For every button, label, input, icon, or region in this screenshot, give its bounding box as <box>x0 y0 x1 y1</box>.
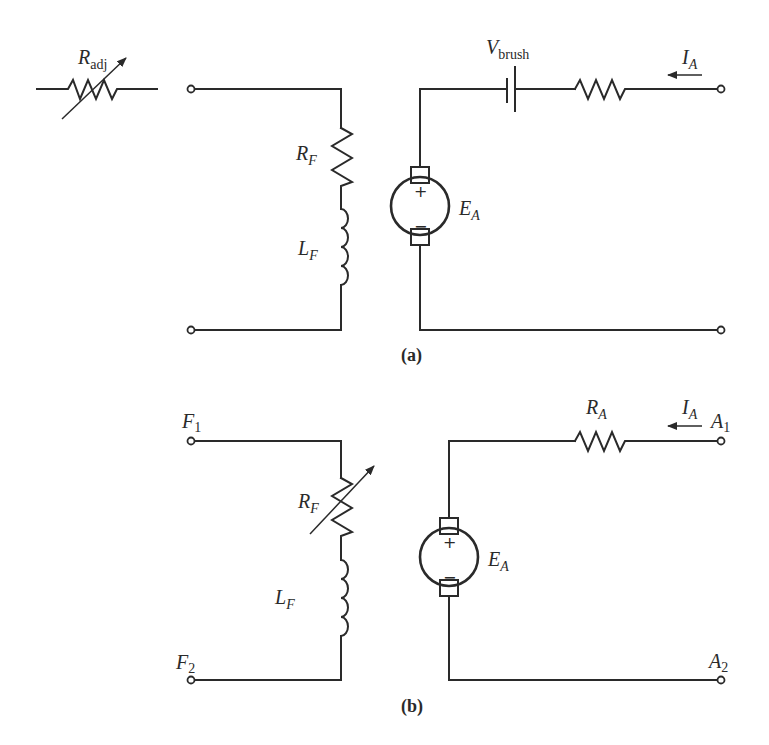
field-resistor-label-b: RF <box>297 490 319 516</box>
terminal-f2-label: F2 <box>175 651 195 676</box>
adjustable-resistor-label: Radj <box>77 46 107 72</box>
panel-a: Radj RF LF <box>37 36 725 366</box>
panel-b: F1 F2 RF LF + − RA <box>175 396 730 717</box>
terminal-f2 <box>188 677 195 684</box>
field-terminal-top <box>188 86 195 93</box>
field-resistor-symbol <box>332 128 352 209</box>
emf-plus-sign: + <box>414 182 427 201</box>
field-resistor-label: RF <box>295 142 317 168</box>
emf-minus-sign-b: − <box>443 568 456 587</box>
armature-resistor-symbol <box>575 80 718 99</box>
emf-minus-sign: − <box>414 217 427 236</box>
armature-machine-symbol-b: + − <box>420 518 478 596</box>
dc-motor-equivalent-circuit-figure: Radj RF LF <box>0 0 769 745</box>
armature-circuit-b: + − <box>420 426 725 684</box>
armature-terminal-top <box>718 86 725 93</box>
armature-terminal-bottom <box>718 327 725 334</box>
armature-current-label: IA <box>681 46 698 72</box>
armature-resistor-label-b: RA <box>585 396 607 422</box>
variable-field-resistor-symbol <box>332 478 352 560</box>
field-terminal-bottom <box>188 327 195 334</box>
field-inductor-symbol-b <box>341 560 348 636</box>
emf-plus-sign-b: + <box>443 533 456 552</box>
terminal-a2-label: A2 <box>707 650 728 675</box>
terminal-a1 <box>718 438 725 445</box>
terminal-a1-label: A1 <box>709 410 730 435</box>
armature-circuit: + − <box>391 67 725 334</box>
field-inductor-symbol <box>341 209 348 285</box>
terminal-f1-label: F1 <box>181 410 201 435</box>
field-circuit-b <box>188 438 375 684</box>
field-inductor-label: LF <box>297 237 318 263</box>
armature-machine-symbol: + − <box>391 167 449 245</box>
armature-current-label-b: IA <box>681 396 698 422</box>
brush-drop-label: Vbrush <box>486 36 529 62</box>
armature-resistor-symbol-b <box>575 432 718 451</box>
field-circuit <box>188 86 353 334</box>
armature-emf-label-b: EA <box>487 548 509 574</box>
panel-b-caption: (b) <box>401 696 423 717</box>
panel-a-caption: (a) <box>401 345 422 366</box>
field-inductor-label-b: LF <box>274 586 295 612</box>
terminal-a2 <box>718 677 725 684</box>
armature-emf-label: EA <box>458 197 480 223</box>
terminal-f1 <box>188 438 195 445</box>
